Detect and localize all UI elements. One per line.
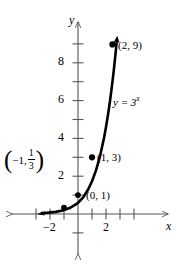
point-0-1 <box>75 192 81 198</box>
exponential-function-graph: y x 8 6 4 2 −2 2 (2, 9) (1, 3) (0, 1) y … <box>0 0 181 269</box>
point-label-1-3: (1, 3) <box>97 152 121 163</box>
x-tick-label-2: 2 <box>103 221 109 233</box>
y-tick-label-2: 2 <box>58 169 64 181</box>
point-label-0-1: (0, 1) <box>86 190 110 201</box>
x-axis <box>12 209 168 220</box>
equation-body: y = 3 <box>113 96 136 108</box>
paren-open: ( <box>4 149 12 170</box>
function-equation-label: y = 3x <box>113 95 140 108</box>
point-neg1-one-third <box>61 205 67 211</box>
x-tick-label-neg2: −2 <box>43 221 56 233</box>
point-label-2-9: (2, 9) <box>118 40 142 51</box>
exponential-curve <box>42 41 117 214</box>
y-tick-label-6: 6 <box>58 93 64 105</box>
fraction-numerator: 1 <box>28 148 35 158</box>
graph-canvas <box>0 0 181 269</box>
frac-x-value: −1, <box>12 154 26 166</box>
x-axis-label: x <box>166 220 171 232</box>
paren-close: ) <box>36 149 44 170</box>
point-1-3 <box>89 154 95 160</box>
y-tick-label-4: 4 <box>58 131 64 143</box>
y-tick-label-8: 8 <box>58 55 64 67</box>
equation-exponent: x <box>136 94 139 103</box>
point-2-9 <box>109 41 115 47</box>
y-axis <box>73 22 84 254</box>
y-axis-label: y <box>69 14 74 26</box>
point-label-neg1-one-third: ( −1, 1 3 ) <box>4 148 44 171</box>
fraction-one-third: 1 3 <box>28 148 35 171</box>
fraction-denominator: 3 <box>28 161 35 171</box>
